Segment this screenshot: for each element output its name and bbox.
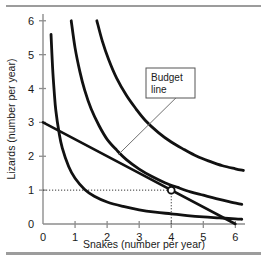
- x-tick-label-6: 6: [232, 231, 238, 243]
- indifference-curve-2: [71, 21, 242, 205]
- y-axis-title: Lizards (number per year): [5, 59, 17, 180]
- y-tick-label-2: 2: [28, 150, 34, 162]
- y-tick-label-6: 6: [28, 15, 34, 27]
- y-tick-label-3: 3: [28, 116, 34, 128]
- tangency-guide-lines: [43, 190, 171, 224]
- x-tick-label-1: 1: [72, 231, 78, 243]
- indifference-curve-chart: 0123456 0123456 Budget line Snakes (numb…: [0, 0, 267, 262]
- callout-line-2: line: [151, 84, 167, 95]
- figure-container: 0123456 0123456 Budget line Snakes (numb…: [0, 0, 267, 262]
- y-tick-label-4: 4: [28, 83, 34, 95]
- x-axis-title: Snakes (number per year): [83, 238, 205, 250]
- curve-group: [43, 21, 243, 224]
- x-tick-label-0: 0: [40, 231, 46, 243]
- tangency-point: [168, 187, 175, 194]
- budget-line-callout: Budget line: [146, 68, 195, 98]
- y-tick-label-1: 1: [28, 184, 34, 196]
- marker-group: [168, 187, 175, 194]
- y-tick-label-5: 5: [28, 49, 34, 61]
- y-tick-label-0: 0: [28, 218, 34, 230]
- callout-line-1: Budget: [151, 72, 183, 83]
